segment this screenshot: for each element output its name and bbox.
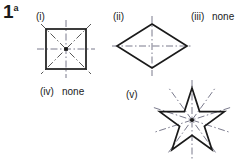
worksheet-figure: 1a (i) (ii) (iii) none (iv) none (v) (0, 0, 252, 167)
star-center-point (190, 118, 194, 122)
figure-star (0, 0, 252, 167)
